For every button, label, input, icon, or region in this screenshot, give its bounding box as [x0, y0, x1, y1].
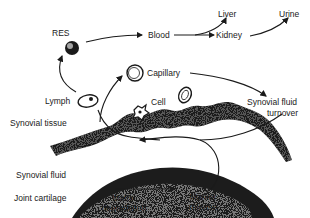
label-marker-release: Marker release: [185, 192, 221, 212]
label-urine: Urine: [279, 9, 299, 19]
arrow-capillary-to-turnover: [190, 73, 266, 96]
res-cell-icon: [65, 41, 79, 55]
label-res: RES: [52, 28, 69, 38]
label-capillary: Capillary: [147, 68, 180, 78]
label-synovial-fluid-turnover-2: turnover: [267, 108, 298, 118]
label-release: release: [185, 202, 221, 212]
arrow-lymph-to-res: [60, 56, 76, 92]
label-joint-cartilage: Joint cartilage: [14, 193, 66, 203]
arrow-kidney-to-urine: [250, 18, 288, 36]
lymph-vessel-icon: [77, 93, 99, 108]
label-lymph: Lymph: [45, 96, 70, 106]
label-blood: Blood: [148, 30, 170, 40]
arrow-fluid-to-capillary: [100, 76, 122, 122]
arrow-res-to-blood: [86, 35, 142, 42]
label-matrix: Matrix: [98, 193, 150, 203]
label-matrix-degradation: Matrix degradation: [98, 193, 150, 213]
label-liver: Liver: [218, 9, 236, 19]
label-synovial-fluid: Synovial fluid: [16, 170, 66, 180]
label-marker: Marker: [185, 192, 221, 202]
label-synovial-fluid-turnover-1: Synovial fluid: [247, 97, 297, 107]
label-synovial-tissue: Synovial tissue: [10, 118, 67, 128]
label-kidney: Kidney: [216, 30, 242, 40]
synovial-tissue-band: [50, 102, 292, 162]
marker-kinetics-diagram: RES Blood Liver Kidney Urine Capillary L…: [0, 0, 310, 218]
label-cell: Cell: [151, 97, 166, 107]
blood-cell-icon: [176, 85, 194, 105]
capillary-cell-icon: [127, 65, 143, 81]
label-degradation: degradation: [98, 203, 150, 213]
